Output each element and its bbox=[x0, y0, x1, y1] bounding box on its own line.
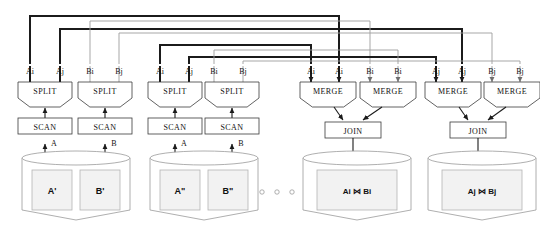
result-label-g3: Ai ⋈ Bi bbox=[343, 187, 371, 196]
group-g4: MERGEMERGEJOINAj ⋈ Bj bbox=[425, 82, 540, 220]
split-box-g2-1: SPLIT bbox=[205, 82, 259, 107]
store-g2-top bbox=[150, 151, 258, 165]
split-box-g1-0-label: SPLIT bbox=[33, 87, 56, 96]
merge-to-join-arrow-g3-1 bbox=[363, 107, 382, 120]
scan-box-g2-1-label: SCAN bbox=[221, 123, 244, 132]
group-g3: MERGEMERGEJOINAi ⋈ Bi bbox=[300, 82, 416, 220]
group-g2: SPLITSPLITSCANASCANBA"B" bbox=[148, 82, 259, 220]
route-path-r6 bbox=[189, 57, 436, 64]
store-g3-top bbox=[303, 151, 411, 165]
split-box-g1-1: SPLIT bbox=[78, 82, 132, 107]
join-box-g4: JOIN bbox=[450, 122, 506, 138]
column-label-c2: Aj bbox=[56, 67, 64, 76]
feed-label-g1-0: A bbox=[51, 139, 57, 148]
column-labels: AiAjBiBjAiAjBiBjAiAiBiBiAjAjBjBj bbox=[26, 67, 524, 76]
join-box-g4-label: JOIN bbox=[469, 127, 488, 136]
column-label-c5: Ai bbox=[156, 67, 165, 76]
merge-box-g4-1-label: MERGE bbox=[497, 87, 527, 96]
scan-box-g2-1: SCAN bbox=[205, 118, 259, 134]
scan-box-g2-0: SCAN bbox=[148, 118, 202, 134]
column-label-c14: Aj bbox=[458, 67, 466, 76]
merge-to-join-arrow-g4-1 bbox=[488, 107, 506, 120]
column-label-c4: Bj bbox=[115, 67, 123, 76]
route-path-r8 bbox=[243, 61, 520, 64]
column-label-c1: Ai bbox=[26, 67, 35, 76]
ellipsis-dot-0 bbox=[260, 190, 264, 194]
column-lines bbox=[30, 66, 520, 82]
merge-to-join-arrow-g4-0 bbox=[459, 107, 468, 120]
group-g1: SPLITSPLITSCANASCANBA'B' bbox=[18, 82, 132, 220]
operator-groups: SPLITSPLITSCANASCANBA'B'SPLITSPLITSCANAS… bbox=[18, 82, 540, 220]
ellipsis-marker bbox=[260, 190, 294, 194]
store-g1-top bbox=[22, 151, 130, 165]
merge-box-g4-0: MERGE bbox=[425, 82, 481, 107]
join-box-g3-label: JOIN bbox=[344, 127, 363, 136]
split-box-g1-0: SPLIT bbox=[18, 82, 72, 107]
split-box-g2-1-label: SPLIT bbox=[220, 87, 243, 96]
feed-label-g1-1: B bbox=[111, 139, 116, 148]
scan-box-g1-0-label: SCAN bbox=[34, 123, 57, 132]
ellipsis-dot-1 bbox=[275, 190, 279, 194]
merge-box-g3-0: MERGE bbox=[300, 82, 356, 107]
merge-box-g4-0-label: MERGE bbox=[438, 87, 468, 96]
partition-label-g2-1: B" bbox=[223, 186, 234, 196]
scan-box-g2-0-label: SCAN bbox=[164, 123, 187, 132]
ellipsis-dot-2 bbox=[290, 190, 294, 194]
feed-label-g2-0: A bbox=[181, 139, 187, 148]
column-label-c13: Aj bbox=[432, 67, 440, 76]
routing-network bbox=[30, 16, 520, 64]
merge-box-g3-1-label: MERGE bbox=[373, 87, 403, 96]
join-box-g3: JOIN bbox=[325, 122, 381, 138]
diagram-canvas: SPLITSPLITSCANASCANBA'B'SPLITSPLITSCANAS… bbox=[0, 0, 540, 240]
column-label-c12: Bi bbox=[394, 67, 402, 76]
split-box-g2-0-label: SPLIT bbox=[163, 87, 186, 96]
merge-to-join-arrow-g3-0 bbox=[334, 107, 343, 120]
merge-box-g3-0-label: MERGE bbox=[313, 87, 343, 96]
column-label-c16: Bj bbox=[516, 67, 524, 76]
scan-box-g1-1-label: SCAN bbox=[94, 123, 117, 132]
merge-box-g3-1: MERGE bbox=[360, 82, 416, 107]
scan-box-g1-0: SCAN bbox=[18, 118, 72, 134]
dataflow-diagram: SPLITSPLITSCANASCANBA'B'SPLITSPLITSCANAS… bbox=[0, 0, 540, 240]
split-box-g2-0: SPLIT bbox=[148, 82, 202, 107]
column-label-c15: Bj bbox=[488, 67, 496, 76]
partition-label-g2-0: A" bbox=[175, 186, 186, 196]
merge-box-g4-1: MERGE bbox=[484, 82, 540, 107]
column-label-c10: Ai bbox=[335, 67, 344, 76]
column-label-c6: Aj bbox=[185, 67, 193, 76]
split-box-g1-1-label: SPLIT bbox=[93, 87, 116, 96]
column-label-c8: Bj bbox=[239, 67, 247, 76]
column-label-c7: Bi bbox=[210, 67, 218, 76]
result-label-g4: Aj ⋈ Bj bbox=[468, 187, 496, 196]
partition-label-g1-0: A' bbox=[48, 186, 57, 196]
column-label-c3: Bi bbox=[86, 67, 94, 76]
route-path-r2 bbox=[60, 29, 462, 64]
store-g4-top bbox=[428, 151, 536, 165]
column-label-c11: Bi bbox=[366, 67, 374, 76]
partition-label-g1-1: B' bbox=[96, 186, 105, 196]
scan-box-g1-1: SCAN bbox=[78, 118, 132, 134]
column-label-c9: Ai bbox=[307, 67, 316, 76]
feed-label-g2-1: B bbox=[238, 139, 243, 148]
